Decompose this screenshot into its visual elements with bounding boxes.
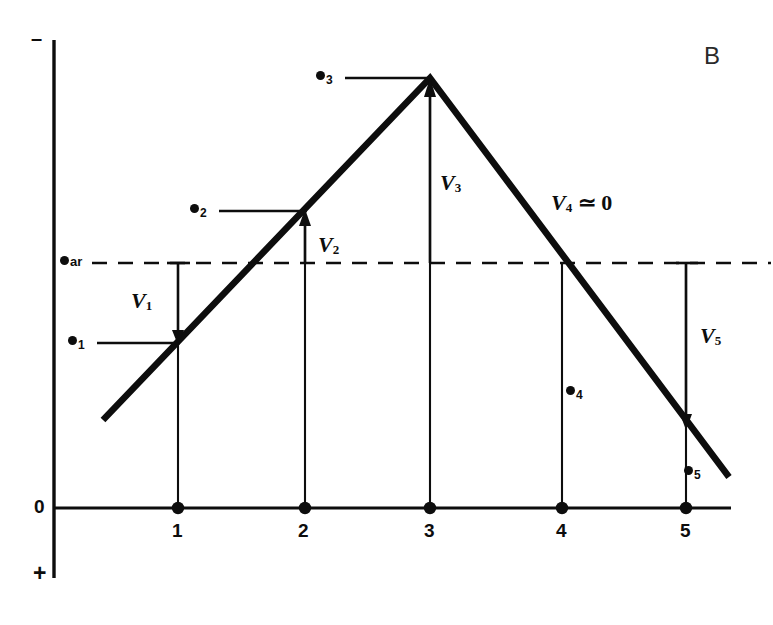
bullet-marker-icon — [684, 466, 693, 475]
label-v1-v: V — [131, 288, 146, 313]
label-e2-sub: 2 — [200, 206, 207, 220]
label-e1-sub: 1 — [78, 338, 85, 352]
axis-point-marker-1 — [172, 502, 184, 514]
origin-label: 0 — [34, 497, 45, 516]
figure-drawing-canvas — [0, 0, 773, 625]
label-v3: V3 — [440, 172, 461, 194]
label-v3-v: V — [440, 170, 455, 195]
label-e4: 4 — [566, 381, 583, 401]
label-v1-sub: 1 — [146, 298, 153, 313]
label-e1: 1 — [68, 331, 85, 351]
x-tick-label-5: 5 — [680, 521, 691, 540]
label-e-ar: ar — [60, 251, 82, 269]
bullet-marker-icon — [190, 204, 199, 213]
label-e5-sub: 5 — [694, 468, 701, 482]
label-v2-sub: 2 — [333, 242, 340, 257]
panel-label: B — [704, 44, 720, 68]
label-e2: 2 — [190, 199, 207, 219]
axis-point-marker-4 — [556, 502, 568, 514]
x-tick-label-4: 4 — [556, 521, 567, 540]
label-v5-sub: 5 — [715, 333, 722, 348]
axis-point-marker-2 — [299, 502, 311, 514]
label-v2: V2 — [318, 234, 339, 256]
label-e-ar-sub: ar — [70, 254, 82, 269]
bullet-marker-icon — [566, 386, 575, 395]
label-v2-v: V — [318, 232, 333, 257]
figure-panel-b: B – + 0 1 2 3 4 5 ar 1 2 3 4 5 V1 V2 V3 … — [0, 0, 773, 625]
label-v4-v: V — [551, 190, 566, 215]
label-e5: 5 — [684, 461, 701, 481]
y-axis-negative-sign: – — [31, 28, 42, 48]
label-e3-sub: 3 — [326, 73, 333, 87]
x-tick-label-1: 1 — [172, 521, 183, 540]
x-tick-label-2: 2 — [298, 521, 309, 540]
label-e4-sub: 4 — [576, 388, 583, 402]
label-v4: V4 ≃ 0 — [551, 192, 612, 214]
x-tick-label-3: 3 — [424, 521, 435, 540]
label-v1: V1 — [131, 290, 152, 312]
label-v5-v: V — [700, 323, 715, 348]
label-v5: V5 — [700, 325, 721, 347]
waveform-trace — [103, 78, 729, 477]
label-v4-suffix: ≃ 0 — [572, 190, 612, 215]
y-axis-positive-sign: + — [33, 562, 46, 585]
bullet-marker-icon — [68, 336, 77, 345]
label-v3-sub: 3 — [455, 180, 462, 195]
bullet-marker-icon — [60, 256, 69, 265]
axis-point-marker-5 — [680, 502, 692, 514]
label-e3: 3 — [316, 66, 333, 86]
bullet-marker-icon — [316, 71, 325, 80]
axis-point-marker-3 — [424, 502, 436, 514]
